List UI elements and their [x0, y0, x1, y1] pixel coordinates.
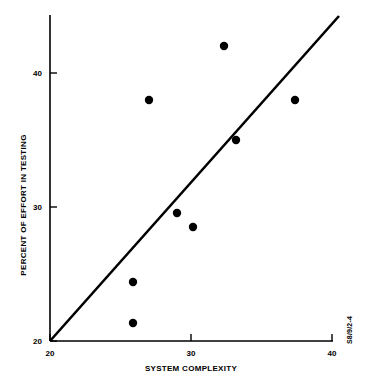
y-tick-label-40: 40 — [33, 69, 42, 78]
regression-line — [50, 16, 339, 341]
data-point — [129, 319, 137, 327]
scatter-plot: 20 30 40 20 30 40 SYSTEM COMPLEXITY PERC… — [0, 0, 370, 388]
data-point — [189, 223, 197, 231]
data-point — [232, 136, 240, 144]
y-tick-label-20: 20 — [33, 337, 42, 346]
y-axis-title: PERCENT OF EFFORT IN TESTING — [19, 134, 28, 275]
x-axis-title: SYSTEM COMPLEXITY — [145, 364, 238, 373]
data-point — [145, 96, 153, 104]
data-point — [129, 278, 137, 286]
x-tick-label-40: 40 — [328, 349, 337, 358]
data-point — [291, 96, 299, 104]
y-tick-label-30: 30 — [33, 203, 42, 212]
data-point — [220, 42, 228, 50]
x-tick-label-20: 20 — [46, 349, 55, 358]
data-point — [173, 209, 181, 217]
x-tick-label-30: 30 — [187, 349, 196, 358]
chart-page: 20 30 40 20 30 40 SYSTEM COMPLEXITY PERC… — [0, 0, 370, 388]
corner-reference-code: S8/9/2-4 — [346, 316, 353, 344]
